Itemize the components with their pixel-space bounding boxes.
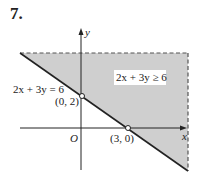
region-label: 2x + 3y ≥ 6 <box>116 71 167 83</box>
origin-label: O <box>70 132 78 144</box>
point-0-2 <box>80 94 85 99</box>
inequality-graph: 2x + 3y ≥ 6 x y O 2x + 3y = 6 (0, 2) (3,… <box>0 0 200 185</box>
y-axis-label: y <box>84 26 90 38</box>
point-3-0-label: (3, 0) <box>110 132 134 145</box>
x-axis-label: x <box>181 130 187 142</box>
boundary-equation-label: 2x + 3y = 6 <box>13 83 64 95</box>
point-3-0 <box>126 126 131 131</box>
y-axis-arrow-icon <box>79 28 84 35</box>
point-0-2-label: (0, 2) <box>55 95 79 108</box>
